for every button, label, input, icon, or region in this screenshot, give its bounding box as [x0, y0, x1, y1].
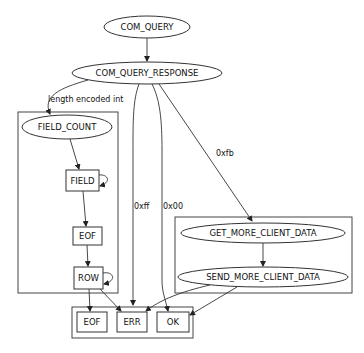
edge-row-to-eof	[89, 289, 90, 311]
node-send-more-client-data: SEND_MORE_CLIENT_DATA	[178, 267, 348, 287]
edge-eof-to-row	[87, 245, 88, 266]
edge-response-to-get-more	[159, 84, 252, 221]
node-eof-inner: EOF	[73, 227, 102, 245]
edge-field-loop	[99, 175, 107, 186]
edge-label-0x00: 0x00	[163, 202, 183, 211]
node-label: FIELD_COUNT	[38, 122, 98, 132]
node-label: COM_QUERY	[120, 22, 174, 32]
state-diagram: length encoded int 0xff 0x00 0xfb COM_QU…	[0, 0, 364, 353]
node-label: COM_QUERY_RESPONSE	[96, 68, 199, 78]
node-com-query: COM_QUERY	[104, 16, 190, 38]
node-label: EOF	[84, 317, 101, 327]
node-label: EOF	[79, 231, 96, 241]
edge-label-length-encoded-int: length encoded int	[48, 95, 123, 104]
edge-field-count-to-field	[70, 139, 79, 169]
edge-response-to-ok	[152, 84, 168, 311]
node-get-more-client-data: GET_MORE_CLIENT_DATA	[181, 223, 345, 243]
node-label: OK	[167, 317, 180, 327]
edge-field-to-eof	[83, 191, 86, 226]
node-label: GET_MORE_CLIENT_DATA	[209, 228, 316, 238]
node-com-query-response: COM_QUERY_RESPONSE	[72, 62, 222, 84]
node-label: ROW	[78, 273, 100, 283]
node-label: ERR	[123, 317, 140, 327]
node-label: FIELD	[70, 176, 95, 186]
node-row: ROW	[74, 267, 103, 289]
node-eof-final: EOF	[77, 312, 107, 332]
node-label: SEND_MORE_CLIENT_DATA	[206, 272, 320, 282]
edge-response-to-err	[133, 84, 139, 305]
edge-label-0xfb: 0xfb	[216, 149, 234, 158]
node-ok: OK	[157, 312, 189, 332]
node-err: ERR	[117, 312, 147, 332]
edge-row-loop	[103, 273, 113, 284]
node-field: FIELD	[66, 170, 99, 191]
node-field-count: FIELD_COUNT	[22, 115, 112, 139]
edge-label-0xff: 0xff	[134, 202, 150, 211]
edge-send-to-ok	[190, 287, 237, 315]
